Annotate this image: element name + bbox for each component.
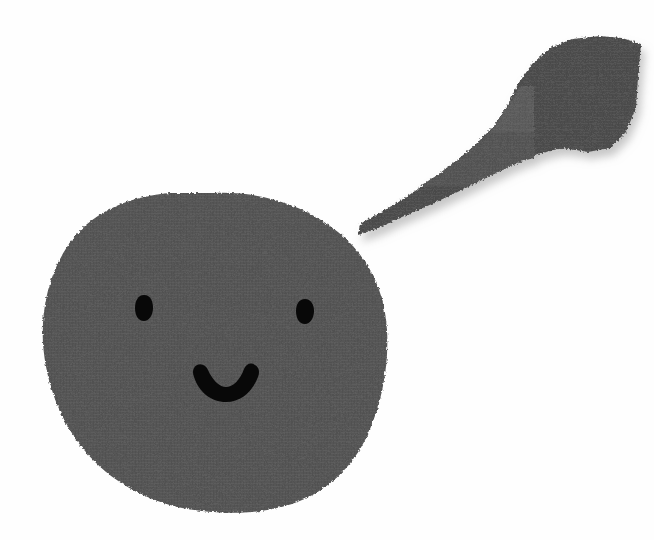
illustration-canvas: A large dark gray torn-paper circle with… <box>0 0 654 540</box>
collage-artboard <box>0 0 654 540</box>
left-eye-icon <box>135 295 153 321</box>
